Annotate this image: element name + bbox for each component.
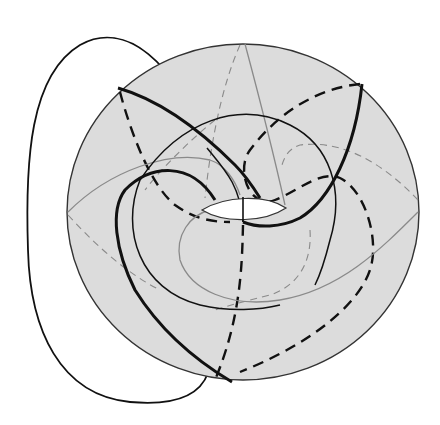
torus-knot-diagram: Knot on a torus <box>0 0 440 425</box>
diagram-canvas <box>0 0 440 425</box>
